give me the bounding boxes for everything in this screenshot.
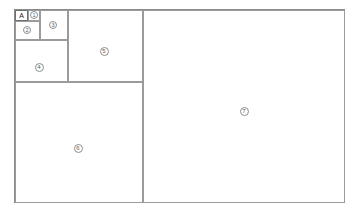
marker-4-label: 4 xyxy=(37,64,40,71)
marker-2: 2 xyxy=(23,26,31,34)
marker-2-label: 2 xyxy=(25,27,28,34)
marker-1: 1 xyxy=(30,11,38,19)
marker-5: 5 xyxy=(100,47,109,56)
panel-4[interactable] xyxy=(15,40,68,82)
panel-5[interactable] xyxy=(68,10,143,82)
diagram-canvas: A 1 2 3 4 5 6 7 xyxy=(0,0,359,215)
tag-box-a[interactable]: A xyxy=(15,10,28,21)
marker-1-label: 1 xyxy=(32,12,35,19)
marker-5-label: 5 xyxy=(102,48,105,55)
tag-box-label: A xyxy=(19,12,24,19)
panel-6[interactable] xyxy=(15,82,143,203)
marker-3: 3 xyxy=(49,21,57,29)
marker-6: 6 xyxy=(74,144,83,153)
marker-6-label: 6 xyxy=(76,145,79,152)
marker-4: 4 xyxy=(35,63,44,72)
marker-3-label: 3 xyxy=(51,22,54,29)
marker-7-label: 7 xyxy=(242,108,245,115)
marker-7: 7 xyxy=(240,107,249,116)
